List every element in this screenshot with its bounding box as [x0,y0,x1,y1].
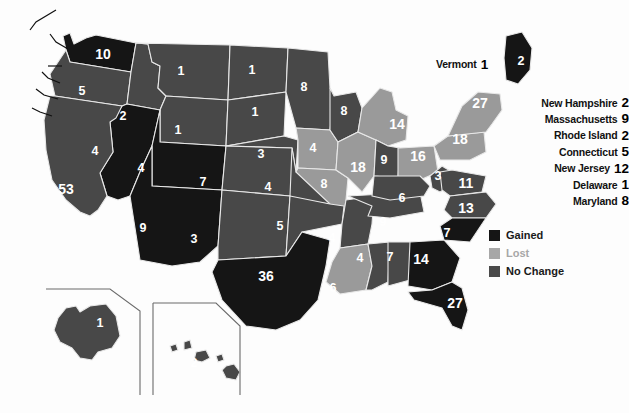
state-value-mo: 8 [321,177,328,191]
state-north-dakota[interactable] [228,45,288,100]
callout-maryland-label: Maryland [573,195,618,207]
state-value-hi: 2 [191,356,198,370]
callout-massachusetts: Massachusetts 9 [436,111,629,127]
northeast-callouts: Vermont 1 New Hampshire 2 Massachusetts … [436,56,629,209]
state-value-tn: 9 [380,215,387,229]
state-value-oh: 16 [410,148,426,164]
callout-new-hampshire-label: New Hampshire [541,97,617,109]
state-hawaii[interactable] [184,340,192,350]
callout-new-jersey: New Jersey 12 [436,160,629,176]
state-value-mn: 8 [301,80,308,94]
state-value-ak: 1 [97,316,104,330]
state-value-ks: 4 [265,180,272,194]
callout-maryland-value: 8 [621,193,629,208]
state-value-ok: 5 [277,219,284,233]
callout-rhode-island-label: Rhode Island [554,129,618,141]
callout-massachusetts-value: 9 [621,111,629,126]
hawaii-inset-frame [153,303,240,395]
state-value-ga: 14 [413,251,429,267]
callout-connecticut-label: Connecticut [559,146,617,158]
callout-connecticut-value: 5 [621,144,629,159]
state-alaska[interactable] [54,304,120,360]
callout-rhode-island-value: 2 [621,128,629,143]
state-value-co: 7 [200,175,207,189]
legend-swatch-no-change [489,266,500,277]
legend-label-gained: Gained [506,229,543,241]
state-wyoming[interactable] [160,96,228,146]
state-value-wi: 8 [341,104,348,118]
state-value-ia: 4 [310,141,317,155]
state-value-ca: 53 [58,181,74,197]
state-value-ne: 3 [258,147,265,161]
callout-vermont-label: Vermont [436,58,477,70]
callout-new-jersey-value: 12 [614,161,629,176]
state-value-ar: 4 [329,231,336,245]
legend-swatch-gained [489,230,500,241]
callout-vermont: Vermont 1 [436,56,629,72]
state-value-sc: 7 [444,226,451,240]
state-value-wy: 1 [175,123,182,137]
state-value-mt: 1 [178,64,185,78]
us-electoral-map: 1052111134848818149164453793536464796311… [0,0,629,413]
callout-rhode-island: Rhode Island 2 [436,127,629,143]
callout-new-hampshire-value: 2 [621,95,629,110]
state-value-nv: 4 [92,144,99,158]
state-value-ky: 6 [399,191,406,205]
state-value-tx: 36 [258,268,274,284]
legend-label-lost: Lost [506,247,529,259]
callout-maryland: Maryland 8 [436,193,629,209]
state-value-al: 7 [387,250,394,264]
state-value-la: 6 [330,281,337,295]
state-california[interactable] [44,96,122,216]
state-value-il: 18 [350,159,366,175]
state-hawaii[interactable] [170,344,178,352]
state-hawaii[interactable] [216,354,224,362]
callout-vermont-value: 1 [481,57,489,72]
legend-label-no-change: No Change [506,265,564,277]
callout-new-jersey-label: New Jersey [554,162,610,174]
state-value-fl: 27 [447,295,463,311]
callout-delaware-label: Delaware [573,179,618,191]
state-value-az: 9 [140,221,147,235]
state-value-ut: 4 [138,161,145,175]
state-value-nm: 3 [191,232,198,246]
state-value-wa: 10 [95,46,111,62]
state-value-id: 2 [120,109,127,123]
state-value-nd: 1 [249,63,256,77]
legend-item-no-change: No Change [489,263,564,279]
state-minnesota[interactable] [286,48,334,130]
map-legend: Gained Lost No Change [489,227,564,281]
legend-item-gained: Gained [489,227,564,243]
callout-delaware-value: 1 [621,177,629,192]
state-value-in: 9 [381,153,388,167]
state-value-mi: 14 [389,116,405,132]
state-iowa[interactable] [296,128,338,170]
callout-new-hampshire: New Hampshire 2 [436,94,629,110]
state-value-ms: 4 [357,251,364,265]
state-value-sd: 1 [252,105,259,119]
legend-swatch-lost [489,248,500,259]
state-value-or: 5 [79,84,86,98]
legend-item-lost: Lost [489,245,564,261]
state-hawaii[interactable] [222,364,240,380]
callout-connecticut: Connecticut 5 [436,144,629,160]
callout-massachusetts-label: Massachusetts [545,113,618,125]
callout-delaware: Delaware 1 [436,176,629,192]
